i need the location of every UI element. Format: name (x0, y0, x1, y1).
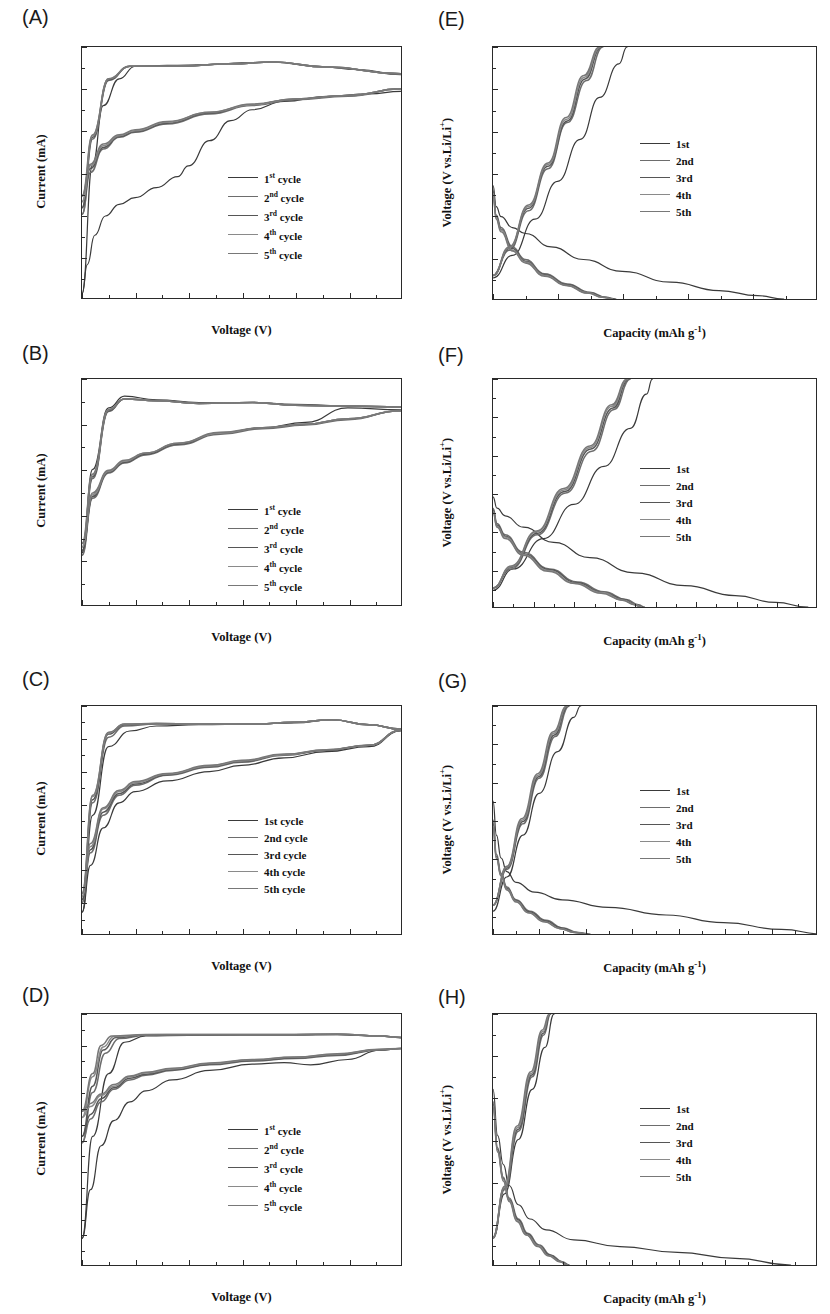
y-minor-tickmark (82, 1030, 85, 1031)
y-tickmark (82, 1109, 87, 1110)
plot-area-g: 3.02.52.01.51.00.50.00200400600800100012… (492, 705, 817, 935)
legend-line-swatch (640, 502, 670, 503)
y-minor-tickmark (82, 539, 85, 540)
legend-line-swatch (640, 841, 670, 842)
x-minor-tickmark (269, 602, 270, 605)
y-tickmark (493, 1225, 498, 1226)
x-tickmark (688, 294, 689, 299)
y-minor-tickmark (493, 475, 496, 476)
panel-label-e: (E) (438, 8, 465, 31)
x-minor-tickmark (702, 931, 703, 934)
x-minor-tickmark (269, 931, 270, 934)
legend-label: 3rd (676, 172, 693, 184)
x-minor-tickmark (216, 295, 217, 298)
legend-label: 4th (676, 836, 691, 848)
legend-line-swatch (640, 468, 670, 469)
y-tickmark (82, 903, 87, 904)
x-minor-tickmark (702, 1262, 703, 1265)
x-minor-tickmark (563, 1262, 564, 1265)
x-tickmark (243, 929, 244, 934)
panel-h: (H)3.02.52.01.51.00.50.00200400600800100… (0, 0, 830, 1314)
legend-label: 4th (676, 514, 691, 526)
plot-area-a: 0.50.0-0.5-1.0-1.5-2.0-2.50.00.51.01.52.… (81, 46, 402, 299)
x-minor-tickmark (554, 604, 555, 607)
legend-item: 2nd (640, 152, 694, 169)
legend-line-swatch (640, 858, 670, 859)
y-minor-tickmark (82, 1156, 85, 1157)
legend-g: 1st2nd3rd4th5th (640, 782, 694, 867)
legend-item: 5th cycle (228, 244, 304, 263)
panel-f: (F)3.02.52.01.51.00.50.00200400600800100… (0, 0, 830, 1314)
x-tickmark (539, 1260, 540, 1265)
x-tickmark (296, 600, 297, 605)
legend-item: 3rd cycle (228, 538, 304, 557)
x-tickmark (534, 602, 535, 607)
x-minor-tickmark (162, 931, 163, 934)
legend-label: 2nd (676, 802, 694, 814)
x-minor-tickmark (798, 604, 799, 607)
x-minor-tickmark (162, 295, 163, 298)
x-axis-label-d: Voltage (V) (211, 1290, 271, 1305)
legend-line-swatch (640, 807, 670, 808)
legend-item: 5th (640, 850, 694, 867)
y-minor-tickmark (493, 437, 496, 438)
panel-label-a: (A) (22, 6, 49, 29)
y-tickmark (82, 425, 87, 426)
plot-area-d: 10-1-2-3-4-5-6-70.00.51.01.52.02.53.0 (81, 1013, 402, 1266)
y-tickmark (82, 1077, 87, 1078)
x-tickmark (558, 294, 559, 299)
legend-item: 3rd (640, 494, 694, 511)
x-tickmark (243, 1260, 244, 1265)
legend-line-swatch (228, 888, 258, 889)
x-tickmark (574, 602, 575, 607)
x-tickmark (623, 294, 624, 299)
x-tickmark (493, 1260, 494, 1265)
x-tickmark (136, 929, 137, 934)
legend-line-swatch (640, 194, 670, 195)
panel-d: (D)10-1-2-3-4-5-6-70.00.51.01.52.02.53.0… (0, 0, 830, 1314)
x-tickmark (350, 600, 351, 605)
x-tickmark (737, 602, 738, 607)
panel-c: (C)0.50.0-0.5-1.0-1.5-2.0-2.5-3.00.00.51… (0, 0, 830, 1314)
legend-line-swatch (640, 211, 670, 212)
legend-line-swatch (228, 215, 258, 216)
panel-label-h: (H) (438, 986, 466, 1009)
x-minor-tickmark (656, 296, 657, 299)
legend-label: 1st (676, 785, 689, 797)
y-minor-tickmark (493, 917, 496, 918)
legend-label: 4th (676, 1154, 691, 1166)
x-minor-tickmark (609, 1262, 610, 1265)
x-tickmark (725, 929, 726, 934)
legend-line-swatch (228, 528, 258, 529)
legend-label: 4th (676, 189, 691, 201)
legend-item: 3rd cycle (228, 206, 304, 225)
y-minor-tickmark (493, 1035, 496, 1036)
legend-item: 2nd cycle (228, 187, 304, 206)
legend-item: 5th (640, 203, 694, 220)
x-minor-tickmark (109, 1262, 110, 1265)
y-tickmark (493, 571, 498, 572)
y-minor-tickmark (82, 788, 85, 789)
legend-line-swatch (228, 234, 258, 235)
y-minor-tickmark (493, 590, 496, 591)
curve-layer (493, 1014, 816, 1265)
x-minor-tickmark (748, 931, 749, 934)
legend-item: 5th (640, 1168, 694, 1185)
y-tickmark (493, 216, 498, 217)
legend-line-swatch (228, 871, 258, 872)
x-tickmark (615, 602, 616, 607)
legend-label: 5th (676, 531, 691, 543)
y-axis-label-g: Voltage (V vs.Li/Li+) (437, 750, 454, 890)
x-minor-tickmark (216, 931, 217, 934)
legend-label: 1st cycle (264, 1123, 301, 1137)
x-tickmark (136, 293, 137, 298)
x-axis-label-a: Voltage (V) (211, 323, 271, 338)
legend-line-swatch (640, 177, 670, 178)
curve-layer (493, 47, 816, 299)
x-tickmark (586, 929, 587, 934)
x-minor-tickmark (269, 295, 270, 298)
legend-item: 4th cycle (228, 225, 304, 244)
y-minor-tickmark (82, 237, 85, 238)
legend-line-swatch (228, 509, 258, 510)
y-tickmark (82, 706, 87, 707)
